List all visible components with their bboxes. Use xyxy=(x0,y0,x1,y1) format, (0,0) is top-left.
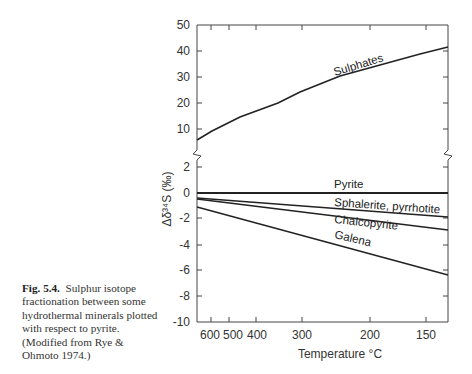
svg-text:300: 300 xyxy=(292,328,312,342)
y-tick-labels: 50 40 30 20 10 2 0 -2 -4 -6 -8 -10 xyxy=(173,18,191,329)
series-galena xyxy=(197,207,448,275)
series-lines xyxy=(197,47,448,275)
axis-break-left xyxy=(193,150,201,160)
y-axis-label: Δδ³⁴S (‰) xyxy=(160,171,174,226)
y-ticks xyxy=(197,51,448,296)
svg-text:-6: -6 xyxy=(179,263,190,277)
x-tick-labels: 600 500 400 300 200 150 xyxy=(200,328,436,342)
plot-frame xyxy=(193,25,452,322)
x-axis-label: Temperature °C xyxy=(298,347,382,361)
svg-text:10: 10 xyxy=(177,122,191,136)
svg-text:20: 20 xyxy=(177,96,191,110)
svg-text:40: 40 xyxy=(177,44,191,58)
label-sulphates: Sulphates xyxy=(332,51,385,78)
series-sulphates xyxy=(197,47,448,140)
svg-text:0: 0 xyxy=(183,186,190,200)
svg-text:30: 30 xyxy=(177,70,191,84)
svg-text:200: 200 xyxy=(360,328,380,342)
axis-break-right xyxy=(444,150,452,160)
svg-text:50: 50 xyxy=(177,18,191,32)
svg-text:-10: -10 xyxy=(173,315,191,329)
svg-text:400: 400 xyxy=(247,328,267,342)
figure-number: Fig. 5.4. xyxy=(22,282,60,294)
series-labels: Sulphates Pyrite Sphalerite, pyrrhotite … xyxy=(332,51,440,248)
svg-text:600: 600 xyxy=(200,328,220,342)
svg-text:-4: -4 xyxy=(179,238,190,252)
svg-text:2: 2 xyxy=(183,160,190,174)
svg-text:-8: -8 xyxy=(179,289,190,303)
label-pyrite: Pyrite xyxy=(334,178,363,190)
figure-caption: Fig. 5.4. Sulphur isotope fractionation … xyxy=(22,282,162,362)
x-ticks xyxy=(211,25,426,322)
svg-text:-2: -2 xyxy=(179,211,190,225)
svg-text:150: 150 xyxy=(416,328,436,342)
svg-text:500: 500 xyxy=(223,328,243,342)
label-chalcopyrite: Chalcopyrite xyxy=(334,213,399,232)
